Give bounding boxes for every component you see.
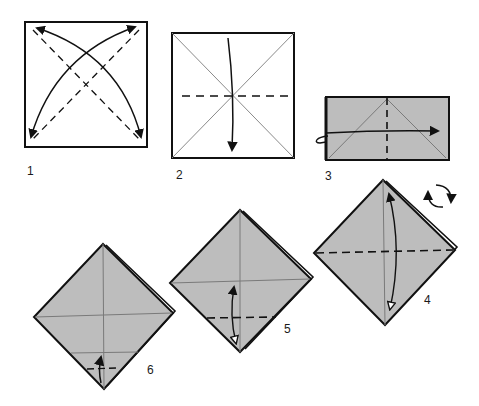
step-1-square — [25, 22, 147, 147]
step-2-square — [172, 33, 294, 158]
step-4-label: 4 — [424, 293, 431, 307]
step-2-label: 2 — [176, 168, 183, 182]
step-3-label: 3 — [325, 169, 332, 183]
rotate-icon — [428, 185, 451, 207]
origami-diagram — [0, 0, 479, 406]
step-3-rectangle — [316, 97, 449, 160]
step-6-label: 6 — [147, 363, 154, 377]
step-5-label: 5 — [284, 322, 291, 336]
step-1-label: 1 — [27, 164, 34, 178]
step-4-diamond — [314, 180, 457, 325]
step-5-diamond — [170, 210, 313, 352]
